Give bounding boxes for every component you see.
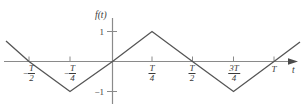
fraction: T2 bbox=[28, 64, 35, 84]
x-tick-label-neg-quarter-T: −T4 bbox=[64, 64, 76, 84]
triangle-wave-figure: f(t) 1 −1 −T2 −T4 T4 T2 3T4 T t bbox=[0, 0, 307, 111]
fraction-denominator: 4 bbox=[148, 74, 155, 83]
plot-canvas bbox=[0, 0, 307, 111]
x-axis-arrowhead bbox=[288, 58, 298, 64]
x-tick-label-T: T bbox=[271, 65, 276, 74]
fraction: T4 bbox=[69, 64, 76, 84]
y-tick-label-positive-one: 1 bbox=[100, 27, 105, 36]
fraction-denominator: 2 bbox=[28, 74, 35, 83]
x-tick-label-neg-half-T: −T2 bbox=[23, 64, 35, 84]
y-tick-label-negative-one: −1 bbox=[94, 87, 104, 96]
x-tick-label-three-quarter-T: 3T4 bbox=[228, 64, 240, 84]
fraction: T2 bbox=[188, 64, 195, 84]
fraction-denominator: 4 bbox=[228, 74, 240, 83]
x-tick-label-half-T: T2 bbox=[188, 64, 195, 84]
fraction: 3T4 bbox=[228, 64, 240, 84]
x-axis-label: t bbox=[292, 66, 295, 76]
x-tick-label-quarter-T: T4 bbox=[148, 64, 155, 84]
fraction-denominator: 2 bbox=[188, 74, 195, 83]
fraction: T4 bbox=[148, 64, 155, 84]
fraction-denominator: 4 bbox=[69, 74, 76, 83]
y-axis-label: f(t) bbox=[95, 11, 107, 21]
